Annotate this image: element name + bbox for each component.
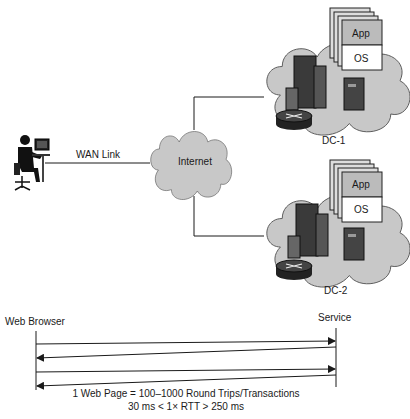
server-icon [344,78,364,110]
dc2-label: DC-2 [324,285,348,296]
caption-line-1: 1 Web Page = 100–1000 Round Trips/Transa… [72,388,299,399]
datacenter-dc2: App OS DC-2 [267,160,410,296]
service-label: Service [318,312,352,323]
dc1-label: DC-1 [322,135,346,146]
router-icon [276,110,312,130]
request-arrow-1 [36,341,335,344]
wan-link-label: WAN Link [76,149,121,160]
internet-label: Internet [178,156,212,167]
dc1-os-label: OS [354,53,369,64]
user-at-computer-icon [14,135,50,190]
response-arrow-2 [37,375,336,386]
caption-line-2: 30 ms < 1× RTT > 250 ms [128,401,244,412]
request-arrow-2 [36,369,335,372]
dc2-os-label: OS [354,204,369,215]
response-arrow-1 [37,347,336,358]
network-diagram: WAN Link Internet App OS [0,0,410,419]
dc1-app-label: App [352,28,370,39]
server-icon [344,228,364,260]
router-icon [276,260,312,280]
web-browser-label: Web Browser [5,316,66,327]
dc2-app-label: App [352,179,370,190]
datacenter-dc1: App OS DC-1 [267,8,410,146]
